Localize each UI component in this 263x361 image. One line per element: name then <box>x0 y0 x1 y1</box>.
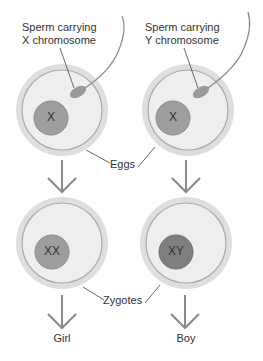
label-girl: Girl <box>53 332 70 345</box>
label-boy: Boy <box>177 332 196 345</box>
eggs-leader-left <box>86 150 110 163</box>
label-line: Sperm carrying <box>145 21 220 34</box>
zygotes-leader-right <box>145 285 160 303</box>
nucleus-label-zygote-right: XY <box>168 245 184 258</box>
label-sperm-y: Sperm carrying Y chromosome <box>145 21 220 47</box>
nucleus-label-egg-left: X <box>47 111 55 124</box>
label-zygotes: Zygotes <box>103 294 142 307</box>
label-line: X chromosome <box>22 34 97 47</box>
egg-left <box>16 64 108 156</box>
eggs-leader-right <box>138 147 155 167</box>
zygote-right <box>140 197 232 289</box>
zygote-left <box>16 197 108 289</box>
label-line: Y chromosome <box>145 34 220 47</box>
zygotes-leader-left <box>83 287 104 300</box>
label-eggs: Eggs <box>110 158 135 171</box>
label-sperm-x: Sperm carrying X chromosome <box>22 21 97 47</box>
nucleus-label-zygote-left: XX <box>44 245 60 258</box>
nucleus-label-egg-right: X <box>169 111 177 124</box>
label-line: Sperm carrying <box>22 21 97 34</box>
